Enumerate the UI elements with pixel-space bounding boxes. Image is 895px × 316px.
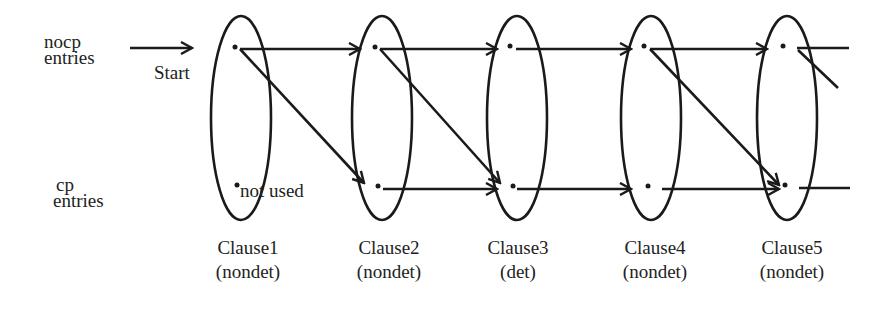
clause1-name: Clause1 <box>193 236 303 260</box>
clause5-caption: Clause5 (nondet) <box>737 236 847 284</box>
clause1-cp-dot <box>235 183 240 188</box>
nocp-row-label: nocp entries <box>44 34 95 66</box>
clause5-cp-dot <box>783 183 788 188</box>
cp-label-line2: entries <box>53 193 104 209</box>
diag-arrow-2-3 <box>380 49 500 183</box>
clause3-caption: Clause3 (det) <box>463 236 573 284</box>
clause5-nocp-dot <box>781 44 786 49</box>
start-label: Start <box>154 65 190 81</box>
clause3-cp-dot <box>511 184 516 189</box>
clause4-type: (nondet) <box>600 260 710 284</box>
clause2-caption: Clause2 (nondet) <box>334 236 444 284</box>
not-used-label: not used <box>240 183 304 199</box>
clause1-nocp-dot <box>233 45 238 50</box>
clause2-type: (nondet) <box>334 260 444 284</box>
clause2-name: Clause2 <box>334 236 444 260</box>
clause5-type: (nondet) <box>737 260 847 284</box>
clause4-caption: Clause4 (nondet) <box>600 236 710 284</box>
clause3-name: Clause3 <box>463 236 573 260</box>
clause3-type: (det) <box>463 260 573 284</box>
clause2-nocp-dot <box>373 45 378 50</box>
diag-exit-line <box>798 50 838 88</box>
clause4-cp-dot <box>646 184 651 189</box>
clause1-type: (nondet) <box>193 260 303 284</box>
clause4-name: Clause4 <box>600 236 710 260</box>
nocp-label-line2: entries <box>44 50 95 66</box>
clause2-cp-dot <box>376 184 381 189</box>
diag-arrow-1-2 <box>240 49 364 183</box>
clause5-name: Clause5 <box>737 236 847 260</box>
clause3-nocp-dot <box>508 44 513 49</box>
clause4-nocp-dot <box>642 44 647 49</box>
clause1-caption: Clause1 (nondet) <box>193 236 303 284</box>
cp-row-label: cp entries <box>56 177 104 209</box>
